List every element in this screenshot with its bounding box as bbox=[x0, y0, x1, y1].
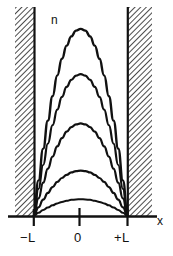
x-tick-label-neg-l: −L bbox=[20, 231, 36, 244]
x-axis-label: x bbox=[157, 215, 163, 227]
curve-family-label: n bbox=[51, 14, 58, 26]
right-potential-wall bbox=[128, 7, 152, 217]
right-wall-hatch-fill bbox=[128, 7, 152, 216]
left-wall-hatch-fill bbox=[15, 7, 34, 216]
x-tick-label-pos-l: +L bbox=[114, 231, 130, 244]
well-diagram-svg bbox=[0, 0, 173, 256]
left-potential-wall bbox=[15, 7, 35, 217]
x-tick-label-zero: 0 bbox=[74, 231, 81, 244]
figure-container: n −L 0 +L x bbox=[0, 0, 173, 256]
